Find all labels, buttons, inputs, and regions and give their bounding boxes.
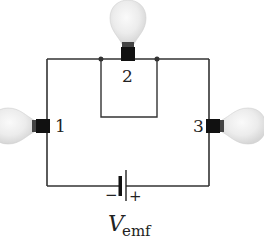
battery	[119, 170, 127, 201]
bulb-3-label: 3	[193, 116, 204, 136]
bulb-3-glass	[222, 108, 264, 144]
junction-left	[99, 57, 103, 61]
bulb-1-socket	[36, 119, 50, 133]
battery-negative-plate	[119, 176, 123, 196]
battery-positive-sign: +	[129, 187, 142, 205]
bulb-2-socket	[121, 47, 135, 61]
junction-right	[155, 57, 159, 61]
battery-negative-sign: −	[105, 186, 118, 204]
bulb-2	[110, 0, 146, 61]
bulb-1	[0, 108, 50, 144]
circuit-diagram: 1 2 3 − + V emf	[0, 0, 264, 244]
bulb-1-glass	[0, 108, 34, 144]
bulb-1-label: 1	[55, 116, 66, 136]
bulb-3	[206, 108, 264, 144]
battery-label-subscript: emf	[122, 222, 152, 240]
bulb-2-label: 2	[122, 66, 133, 86]
bulb-3-socket	[206, 119, 220, 133]
bulb-2-glass	[110, 0, 146, 44]
